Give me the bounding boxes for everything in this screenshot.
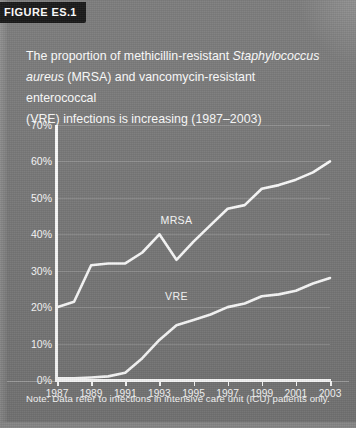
y-axis-labels: 0%10%20%30%40%50%60%70% [0,125,52,380]
figure-title-part-3: (VRE) infections is increasing (1987–200… [26,112,262,126]
gridline [57,307,330,308]
y-axis-tick-label: 20% [31,301,52,313]
series-label-vre: VRE [165,290,188,302]
gridline [57,198,330,199]
figure-title-italic-2: aureus [26,70,64,84]
y-axis-tick-label: 10% [31,338,52,350]
y-axis-tick-label: 40% [31,228,52,240]
figure-title-part-1: The proportion of methicillin-resistant [26,49,233,63]
gridline [57,161,330,162]
gridline [57,344,330,345]
figure-number-tab: FIGURE ES.1 [0,2,86,23]
figure-title-italic-1: Staphylococcus [233,49,320,63]
y-axis-tick-label: 50% [31,192,52,204]
y-axis-tick-label: 30% [31,265,52,277]
series-line-vre [57,278,330,378]
panel-bottom-edge [0,422,356,428]
y-axis-tick-label: 60% [31,155,52,167]
gridline [57,234,330,235]
plot-area: MRSAVRE [57,125,330,380]
note-text: Note: Data refer to infections in intens… [26,393,330,404]
series-lines [57,125,330,380]
figure-title: The proportion of methicillin-resistant … [26,46,326,130]
gridline [57,271,330,272]
line-chart: 0%10%20%30%40%50%60%70% MRSAVRE 19871989… [0,112,356,390]
figure-panel: FIGURE ES.1 The proportion of methicilli… [0,0,356,428]
series-label-mrsa: MRSA [161,214,193,226]
